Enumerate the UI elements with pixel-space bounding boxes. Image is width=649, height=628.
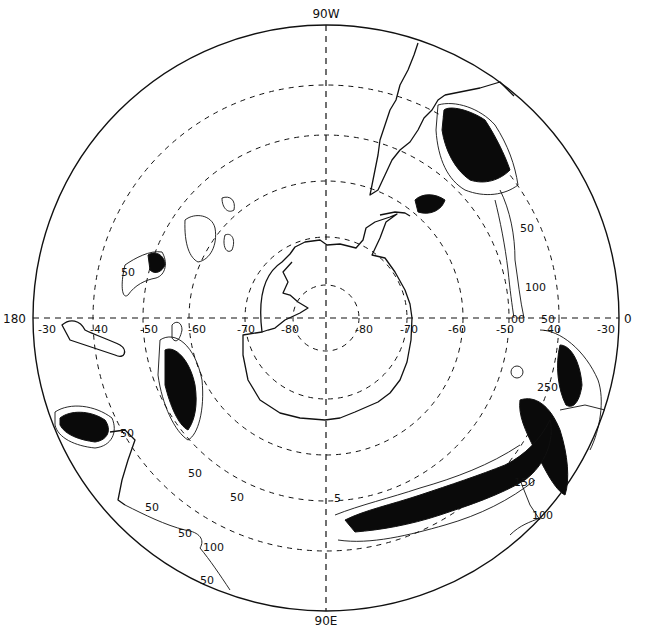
contour-label: 50 [121,266,135,279]
axis-labels: 90W 90E 180 0 -30 -40 -50 -60 -70 -80 -8… [3,7,632,628]
contour-label: 100 [203,541,224,554]
label-90e: 90E [315,614,338,628]
contour-label: 50 [541,313,555,326]
contour-label: 150 [514,476,535,489]
lat-label-left-30: -30 [38,323,56,336]
contour-label: 5 [334,492,341,505]
contour-label: 100 [532,509,553,522]
polar-contour-map: 90W 90E 180 0 -30 -40 -50 -60 -70 -80 -8… [0,0,649,628]
contour-label: 50 [520,222,534,235]
contour-label: 50 [120,427,134,440]
scotia-arc [380,195,445,216]
lat-label-left-50: -50 [140,323,158,336]
lat-label-right-60: -60 [448,323,466,336]
lat-label-left-70: -70 [237,323,255,336]
contour-label: 50 [200,574,214,587]
lat-label-left-80: -80 [281,323,299,336]
islands-upper-left [122,197,234,296]
contour-label: 50 [178,527,192,540]
contour-label: 100 [525,281,546,294]
contour-label: 250 [537,381,558,394]
kerguelen-plateau [158,322,203,440]
contour-label: 50 [145,501,159,514]
antarctica-coastline [243,214,412,420]
lat-label-right-30: -30 [597,323,615,336]
label-180: 180 [3,312,26,326]
lat-label-left-40: -40 [90,323,108,336]
contour-label: 50 [188,467,202,480]
lat-label-left-60: -60 [188,323,206,336]
label-0: 0 [624,312,632,326]
lat-label-right-80: -80 [355,323,373,336]
label-90w: 90W [312,7,339,21]
lat-label-right-70: -70 [400,323,418,336]
meridian-axes [33,25,619,611]
contour-label: 50 [230,491,244,504]
contour-label: 00 [511,313,525,326]
